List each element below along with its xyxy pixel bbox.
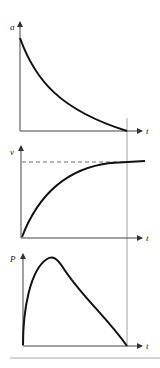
- motion-graphs-diagram: a t v t P t: [0, 0, 160, 368]
- y-axis-label: v: [10, 147, 14, 157]
- power-curve: [23, 257, 127, 346]
- x-axis-label: t: [146, 341, 149, 351]
- velocity-curve: [22, 161, 145, 237]
- y-axis-label: P: [9, 254, 16, 264]
- panel-velocity: v t: [10, 146, 149, 243]
- x-axis-label: t: [146, 126, 149, 136]
- x-axis-label: t: [146, 233, 149, 243]
- panel-acceleration: a t: [10, 22, 149, 136]
- acceleration-curve: [20, 38, 127, 131]
- y-axis-label: a: [10, 22, 15, 32]
- panel-power: P t: [9, 254, 149, 351]
